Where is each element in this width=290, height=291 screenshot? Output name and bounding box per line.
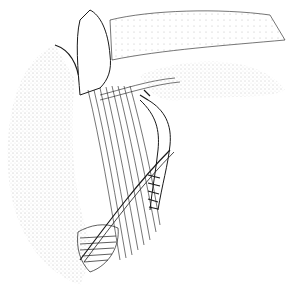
illustration-canvas — [0, 0, 290, 291]
right-organ — [140, 61, 285, 100]
muscle-fibers — [80, 78, 180, 262]
anatomical-drawing — [0, 0, 290, 291]
sutured-duct — [140, 90, 170, 210]
